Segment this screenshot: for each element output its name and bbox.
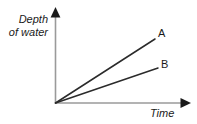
series-line-b — [56, 68, 159, 103]
x-axis-arrowhead-icon — [181, 98, 192, 108]
y-axis-arrowhead-icon — [51, 7, 61, 18]
y-axis-label-line-1: Depth — [19, 13, 48, 25]
y-axis-label-line-2: of water — [9, 26, 48, 38]
series-line-a — [56, 39, 156, 103]
y-axis-label: Depthof water — [0, 13, 48, 39]
series-label-b: B — [161, 58, 168, 70]
series-label-a: A — [158, 27, 165, 39]
depth-of-water-vs-time-chart: Depthof water Time A B — [0, 0, 197, 124]
x-axis-label: Time — [150, 107, 174, 120]
